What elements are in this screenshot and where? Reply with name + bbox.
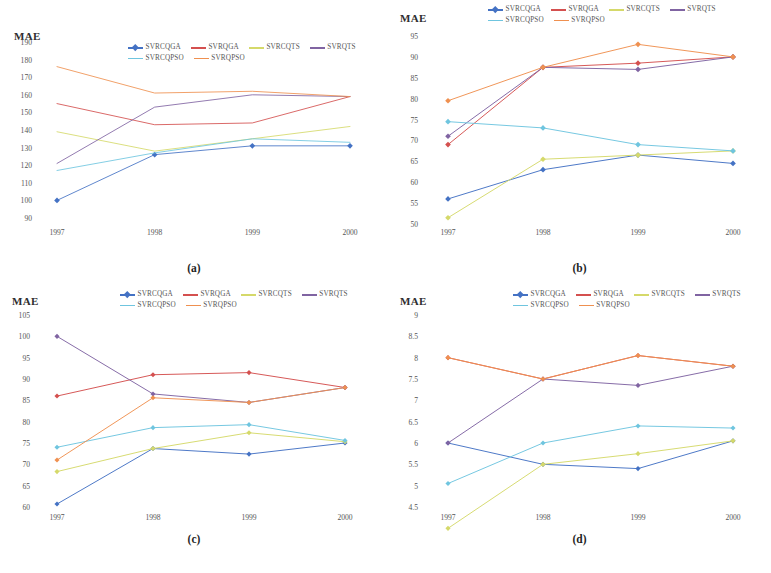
data-point-marker (730, 54, 736, 60)
data-point-marker (445, 98, 451, 104)
data-point-marker (250, 143, 256, 149)
series-line-svrqga (448, 57, 733, 145)
x-tick-label: 1998 (535, 228, 550, 237)
line-chart-c (0, 285, 388, 533)
series-line-svrcqpso (57, 425, 345, 448)
series-line-svrcqga (57, 146, 350, 201)
data-point-marker (635, 383, 640, 388)
line-chart-a (0, 0, 388, 248)
series-line-svrqts (448, 366, 733, 443)
series-line-svrcqga (448, 155, 733, 199)
data-point-marker (150, 395, 155, 400)
series-line-svrcqts (448, 151, 733, 218)
plot-area-d (388, 285, 771, 533)
data-point-marker (730, 161, 736, 167)
x-tick-label: 1997 (440, 228, 455, 237)
series-line-svrqpso (57, 67, 350, 97)
x-tick-label: 2000 (725, 513, 740, 522)
line-chart-b (388, 0, 771, 248)
data-point-marker (54, 469, 59, 474)
plot-area-c (0, 285, 388, 533)
subfigure-caption-a: (a) (0, 262, 388, 274)
data-point-marker (246, 422, 251, 427)
data-point-marker (246, 430, 251, 435)
chart-panel-c: MAE SVRCQGASVRQGASVRCQTSSVRQTSSVRCQPSOSV… (0, 285, 388, 573)
series-line-svrcqpso (448, 122, 733, 151)
data-point-marker (540, 167, 546, 173)
data-point-marker (445, 119, 451, 125)
data-point-marker (730, 438, 735, 443)
data-point-marker (635, 451, 640, 456)
chart-panel-a: MAE SVRCQGASVRQGASVRCQTSSVRQTSSVRCQPSOSV… (0, 0, 388, 288)
x-tick-label: 1999 (241, 513, 256, 522)
x-tick-label: 1997 (440, 513, 455, 522)
line-chart-d (388, 285, 771, 533)
chart-panel-b: MAE SVRCQGASVRQGASVRCQTSSVRQTSSVRCQPSOSV… (388, 0, 771, 288)
series-line-svrcqga (448, 441, 733, 469)
data-point-marker (635, 353, 640, 358)
data-point-marker (635, 67, 641, 73)
series-line-svrqga (57, 373, 345, 396)
plot-area-a (0, 0, 388, 248)
series-line-svrqpso (448, 356, 733, 379)
series-line-svrcqpso (448, 426, 733, 484)
x-tick-label: 1997 (49, 228, 64, 237)
x-tick-label: 2000 (337, 513, 352, 522)
series-line-svrqpso (448, 44, 733, 100)
data-point-marker (150, 446, 155, 451)
series-line-svrcqpso (57, 139, 350, 171)
data-point-marker (150, 372, 155, 377)
figure-sheet: MAE SVRCQGASVRQGASVRCQTSSVRQTSSVRCQPSOSV… (0, 0, 771, 573)
data-point-marker (246, 400, 251, 405)
plot-area-b (388, 0, 771, 248)
data-point-marker (635, 42, 641, 48)
data-point-marker (635, 152, 641, 158)
x-tick-label: 1998 (147, 228, 162, 237)
data-point-marker (445, 481, 450, 486)
subfigure-caption-c: (c) (0, 533, 388, 545)
series-line-svrqts (57, 336, 345, 402)
series-line-svrcqts (448, 441, 733, 528)
data-point-marker (730, 364, 735, 369)
data-point-marker (540, 440, 545, 445)
data-point-marker (635, 60, 641, 66)
data-point-marker (635, 423, 640, 428)
data-point-marker (635, 466, 640, 471)
x-tick-label: 1998 (145, 513, 160, 522)
x-tick-label: 1999 (245, 228, 260, 237)
x-tick-label: 2000 (342, 228, 357, 237)
x-tick-label: 1997 (49, 513, 64, 522)
x-tick-label: 1998 (535, 513, 550, 522)
data-point-marker (730, 426, 735, 431)
data-point-marker (540, 125, 546, 131)
series-line-svrcqts (57, 126, 350, 151)
data-point-marker (54, 458, 59, 463)
series-line-svrqts (57, 95, 350, 164)
data-point-marker (445, 355, 450, 360)
data-point-marker (635, 142, 641, 148)
data-point-marker (54, 334, 59, 339)
data-point-marker (54, 501, 59, 506)
series-line-svrcqga (57, 443, 345, 504)
data-point-marker (246, 370, 251, 375)
x-tick-label: 2000 (725, 228, 740, 237)
data-point-marker (150, 425, 155, 430)
data-point-marker (54, 198, 60, 204)
x-tick-label: 1999 (630, 228, 645, 237)
data-point-marker (347, 143, 353, 149)
data-point-marker (730, 148, 736, 154)
data-point-marker (445, 196, 451, 202)
x-tick-label: 1999 (630, 513, 645, 522)
data-point-marker (54, 445, 59, 450)
subfigure-caption-b: (b) (388, 262, 771, 274)
data-point-marker (342, 385, 347, 390)
chart-panel-d: MAE SVRCQGASVRQGASVRCQTSSVRQTSSVRCQPSOSV… (388, 285, 771, 573)
data-point-marker (246, 452, 251, 457)
subfigure-caption-d: (d) (388, 533, 771, 545)
data-point-marker (445, 215, 451, 221)
data-point-marker (540, 156, 546, 162)
data-point-marker (54, 394, 59, 399)
